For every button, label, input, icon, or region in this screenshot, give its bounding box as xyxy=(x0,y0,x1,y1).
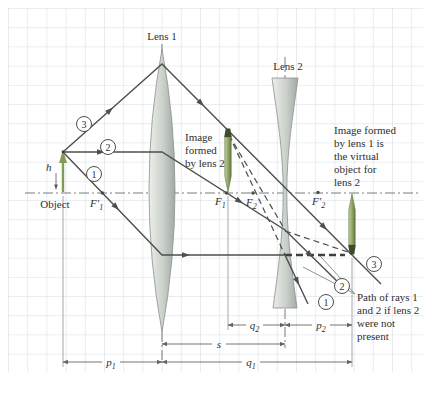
svg-text:lens 2: lens 2 xyxy=(334,176,360,188)
svg-text:2: 2 xyxy=(106,142,111,153)
svg-text:by lens 1 is: by lens 1 is xyxy=(334,137,384,149)
object-label: Object xyxy=(40,198,69,210)
svg-text:Image: Image xyxy=(185,131,213,143)
svg-text:by lens 2: by lens 2 xyxy=(185,157,225,169)
lens1-label: Lens 1 xyxy=(147,30,177,42)
svg-text:1: 1 xyxy=(92,169,97,180)
svg-text:present: present xyxy=(357,330,389,342)
svg-text:the virtual: the virtual xyxy=(334,150,379,162)
focal-dot-f2 xyxy=(251,191,254,194)
svg-text:formed: formed xyxy=(185,144,217,156)
svg-text:2: 2 xyxy=(340,281,345,292)
svg-text:and 2 if lens 2: and 2 if lens 2 xyxy=(357,304,419,316)
focal-dot-f2-prime xyxy=(316,191,319,194)
svg-text:3: 3 xyxy=(372,259,377,270)
svg-text:Path of rays 1: Path of rays 1 xyxy=(357,291,418,303)
svg-text:3: 3 xyxy=(82,119,87,130)
dim-label-s: s xyxy=(217,338,221,350)
ray-diagram-canvas: 1 2 3 1 2 3 Lens 1 Lens 2 Object h F′1 F… xyxy=(0,0,429,393)
focal-dot-f1 xyxy=(225,191,228,194)
svg-text:were not: were not xyxy=(357,317,395,329)
svg-text:object for: object for xyxy=(334,163,377,175)
lens2-label: Lens 2 xyxy=(273,60,303,72)
focal-dot-f1-prime xyxy=(101,191,104,194)
object-height-label: h xyxy=(46,161,52,173)
svg-text:1: 1 xyxy=(324,297,329,308)
figure-two-lens-ray-diagram: 1 2 3 1 2 3 Lens 1 Lens 2 Object h F′1 F… xyxy=(0,0,429,393)
svg-text:Image formed: Image formed xyxy=(334,124,396,136)
